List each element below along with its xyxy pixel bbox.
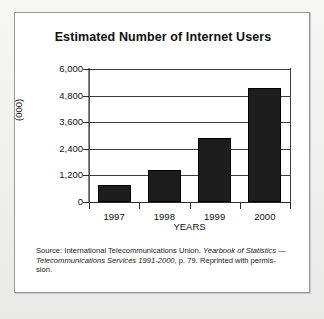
y-axis-tick-label: 1,200 bbox=[37, 170, 83, 179]
x-axis-tick bbox=[190, 203, 191, 209]
chart-title: Estimated Number of Internet Users bbox=[15, 30, 311, 44]
gridline bbox=[89, 69, 290, 70]
y-axis-tick-label: 2,400 bbox=[37, 144, 83, 153]
x-axis-title: YEARS bbox=[89, 221, 290, 232]
x-axis-tick bbox=[139, 203, 140, 209]
source-note: Source: International Telecommunications… bbox=[36, 246, 294, 275]
bar-1997 bbox=[98, 185, 131, 202]
y-axis-tick bbox=[83, 69, 89, 70]
y-axis-tick-label: 0 bbox=[37, 197, 83, 206]
y-axis-title: (000) bbox=[13, 99, 24, 121]
source-line2-dash: — bbox=[278, 246, 286, 255]
plot-right-border bbox=[290, 68, 291, 203]
plot-area: 1997199819992000 bbox=[89, 69, 290, 202]
y-axis-tick-label: 3,600 bbox=[37, 117, 83, 126]
bar-2000 bbox=[248, 88, 281, 202]
bar-1999 bbox=[198, 138, 231, 202]
y-axis-tick bbox=[83, 149, 89, 150]
y-axis-tick bbox=[83, 175, 89, 176]
source-line1-italic: Yearbook of Statistics bbox=[203, 246, 276, 255]
bar-1998 bbox=[148, 170, 181, 202]
y-axis-tick-label: 6,000 bbox=[37, 64, 83, 73]
y-axis-tick-label: 4,800 bbox=[37, 91, 83, 100]
source-line2-text: , p. 79. Reprinted with permis- bbox=[175, 256, 276, 265]
x-axis-tick-origin bbox=[89, 203, 90, 209]
x-axis-tick bbox=[290, 203, 291, 209]
y-axis-tick-labels: 01,2002,4003,6004,8006,000 bbox=[29, 69, 83, 209]
source-line3-text: sion. bbox=[36, 265, 52, 274]
source-line2-italic: Telecommunications Services 1991-2000 bbox=[36, 256, 175, 265]
figure-frame: Estimated Number of Internet Users (000)… bbox=[14, 12, 310, 293]
y-axis-tick bbox=[83, 122, 89, 123]
y-axis-tick bbox=[83, 96, 89, 97]
y-axis-line-inner bbox=[89, 69, 90, 203]
source-line1-text: Source: International Telecommunications… bbox=[36, 246, 203, 255]
x-axis-tick bbox=[240, 203, 241, 209]
